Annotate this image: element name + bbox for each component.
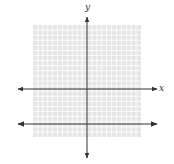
coordinate-plane — [0, 0, 174, 164]
x-axis-label: x — [159, 83, 164, 93]
y-axis-label: y — [85, 2, 90, 12]
